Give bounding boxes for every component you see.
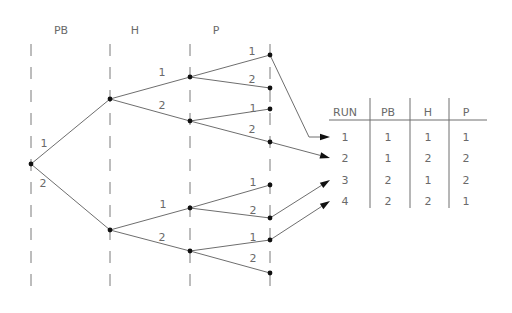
table-header-p: P [463, 106, 470, 119]
tree-edge [110, 208, 190, 230]
tree-node [188, 249, 193, 254]
table-cell: 2 [425, 152, 432, 165]
tree-node [268, 140, 273, 145]
table-cell: 1 [425, 131, 432, 144]
branch-label: 1 [250, 176, 257, 189]
tree-node [268, 53, 273, 58]
run-arrow-line [270, 55, 320, 137]
tree-edge [110, 230, 190, 251]
tree-node [268, 271, 273, 276]
factor-header: PB [54, 24, 68, 37]
tree-edge [31, 164, 110, 230]
tree-edge [190, 251, 270, 273]
table-cell: 1 [385, 131, 392, 144]
tree-edges [31, 55, 270, 273]
table-cell: 4 [342, 195, 349, 208]
factor-header: H [131, 24, 139, 37]
table-cell: 1 [385, 152, 392, 165]
branch-label: 2 [159, 231, 166, 244]
table-cell: 1 [342, 131, 349, 144]
tree-node [268, 183, 273, 188]
branch-label: 1 [159, 66, 166, 79]
branch-labels: 12121212121212 [40, 45, 257, 265]
table-cell: 2 [342, 152, 349, 165]
table-header-pb: PB [381, 106, 395, 119]
tree-edge [110, 77, 190, 99]
arrowhead-icon [320, 201, 330, 209]
tree-edge [190, 77, 270, 88]
tree-edge [190, 240, 270, 251]
branch-label: 2 [249, 123, 256, 136]
table-header-h: H [424, 106, 432, 119]
table-cell: 2 [425, 195, 432, 208]
branch-label: 2 [40, 177, 47, 190]
run-arrow-line [270, 206, 322, 240]
tree-node [188, 75, 193, 80]
branch-label: 1 [250, 231, 257, 244]
table-cell: 2 [463, 152, 470, 165]
tree-edge [110, 99, 190, 121]
table-cell: 1 [463, 131, 470, 144]
tree-edge [31, 99, 110, 164]
factor-header: P [213, 24, 220, 37]
tree-node [108, 97, 113, 102]
run-arrow-line [270, 142, 320, 155]
branch-label: 1 [160, 198, 167, 211]
table-cell: 2 [385, 195, 392, 208]
table-cell: 2 [463, 174, 470, 187]
tree-edge [190, 185, 270, 208]
tree-nodes [29, 53, 273, 276]
branch-label: 2 [250, 204, 257, 217]
arrowhead-icon [320, 180, 330, 188]
tree-edge [190, 109, 270, 121]
table-cell: 2 [385, 174, 392, 187]
tree-node [268, 86, 273, 91]
branch-label: 1 [41, 137, 48, 150]
tree-node [268, 238, 273, 243]
run-arrow-line [270, 185, 322, 218]
run-table: RUNPBHP1111212232124221 [329, 98, 487, 208]
table-cell: 1 [425, 174, 432, 187]
arrowhead-icon [320, 152, 330, 158]
branch-label: 2 [249, 73, 256, 86]
branch-label: 2 [250, 252, 257, 265]
tree-edge [190, 55, 270, 77]
run-arrows [270, 55, 330, 240]
tree-node [29, 162, 34, 167]
table-cell: 3 [342, 174, 349, 187]
tree-node [188, 206, 193, 211]
table-cell: 1 [463, 195, 470, 208]
arrowhead-icon [320, 134, 330, 140]
level-dashed-lines [31, 44, 270, 297]
tree-edge [190, 208, 270, 218]
tree-node [188, 119, 193, 124]
branch-label: 1 [250, 102, 257, 115]
factor-headers: PBHP [54, 24, 220, 37]
branch-label: 2 [159, 99, 166, 112]
factorial-tree-diagram: PBHP 12121212121212 RUNPBHP1111212232124… [0, 0, 512, 313]
tree-edge [190, 121, 270, 142]
tree-node [108, 228, 113, 233]
tree-node [268, 107, 273, 112]
tree-node [268, 216, 273, 221]
branch-label: 1 [249, 45, 256, 58]
table-header-run: RUN [333, 106, 357, 119]
